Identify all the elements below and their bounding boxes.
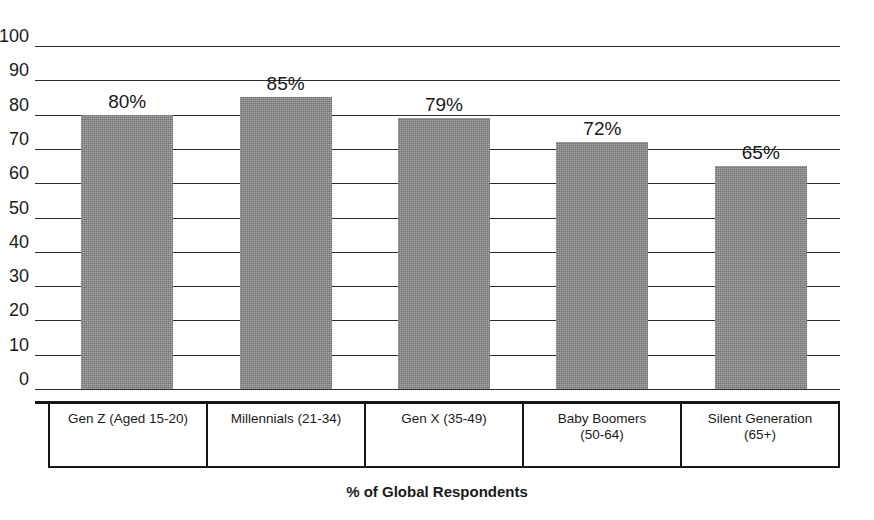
y-axis-tick-label: 40 <box>9 233 29 251</box>
bar-slot: 65% <box>682 46 840 389</box>
bars: 80%85%79%72%65% <box>35 46 840 389</box>
y-axis-tick-label: 100 <box>0 27 29 45</box>
bar[interactable] <box>556 142 648 389</box>
y-axis-tick-label: 60 <box>9 164 29 182</box>
x-axis-category-label: Gen Z (Aged 15-20) <box>68 411 188 466</box>
bar-slot: 85% <box>206 46 364 389</box>
bar[interactable] <box>398 118 490 389</box>
bar-value-label: 80% <box>108 92 146 111</box>
category-cell[interactable]: Baby Boomers (50-64) <box>522 404 680 466</box>
bar-slot: 80% <box>48 46 206 389</box>
category-cell[interactable]: Millennials (21-34) <box>206 404 364 466</box>
y-axis-tick-label: 70 <box>9 130 29 148</box>
bar[interactable] <box>240 97 332 389</box>
y-axis-tick-label: 10 <box>9 336 29 354</box>
x-axis-category-label: Gen X (35-49) <box>401 411 487 466</box>
bar-slot: 72% <box>523 46 681 389</box>
y-axis-tick-label: 0 <box>19 370 29 388</box>
x-axis-category-label: Millennials (21-34) <box>231 411 341 466</box>
bar-value-label: 72% <box>583 119 621 138</box>
bar[interactable] <box>715 166 807 389</box>
y-axis-tick-label: 30 <box>9 267 29 285</box>
plot-area: 1009080706050403020100 80%85%79%72%65% <box>35 46 840 389</box>
y-axis-tick-label: 20 <box>9 301 29 319</box>
bar-slot: 79% <box>365 46 523 389</box>
y-axis-tick-label: 80 <box>9 96 29 114</box>
bar-chart: 1009080706050403020100 80%85%79%72%65% G… <box>0 0 874 520</box>
bar-value-label: 65% <box>742 143 780 162</box>
bar[interactable] <box>81 115 173 389</box>
bar-value-label: 79% <box>425 95 463 114</box>
y-axis-tick-label: 50 <box>9 199 29 217</box>
category-cell[interactable]: Silent Generation (65+) <box>680 404 838 466</box>
x-axis-title: % of Global Respondents <box>0 483 874 500</box>
x-axis-category-label: Baby Boomers (50-64) <box>558 411 647 466</box>
gridline: 0 <box>35 389 840 390</box>
category-cell[interactable]: Gen X (35-49) <box>364 404 522 466</box>
category-cell[interactable]: Gen Z (Aged 15-20) <box>50 404 206 466</box>
x-axis-category-label: Silent Generation (65+) <box>708 411 812 466</box>
y-axis-tick-label: 90 <box>9 61 29 79</box>
category-label-box: Gen Z (Aged 15-20)Millennials (21-34)Gen… <box>48 404 840 468</box>
bar-value-label: 85% <box>267 74 305 93</box>
